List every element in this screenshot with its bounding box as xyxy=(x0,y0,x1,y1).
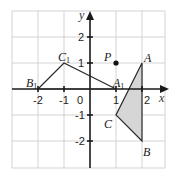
point-p-label: P xyxy=(103,50,112,64)
triangle-abc xyxy=(116,63,142,141)
point-a1-label: A1 xyxy=(112,76,124,91)
point-p-marker xyxy=(113,60,118,65)
point-b-label: B xyxy=(143,145,151,159)
y-axis-label: y xyxy=(78,8,85,22)
x-tick-label: 1 xyxy=(113,94,119,106)
triangle-a1b1c1 xyxy=(38,63,116,89)
y-tick-label: 1 xyxy=(78,57,84,69)
point-b1-label: B1 xyxy=(26,76,37,91)
x-tick-label: -1 xyxy=(59,94,69,106)
y-axis-arrow-icon xyxy=(86,11,94,20)
x-tick-label: -2 xyxy=(33,94,43,106)
point-a-label: A xyxy=(143,51,152,65)
point-c1-label: C1 xyxy=(58,50,70,65)
x-axis-label: x xyxy=(158,91,165,105)
x-tick-label: 2 xyxy=(144,94,150,106)
point-c-label: C xyxy=(104,117,113,131)
y-tick-label: 2 xyxy=(78,31,84,43)
y-tick-label: -1 xyxy=(75,109,85,121)
origin-label: 0 xyxy=(77,94,83,106)
coordinate-diagram: -2 -1 0 1 2 2 1 -1 -2 y x P A B C A1 B1 … xyxy=(0,0,180,179)
y-tick-label: -2 xyxy=(75,135,85,147)
